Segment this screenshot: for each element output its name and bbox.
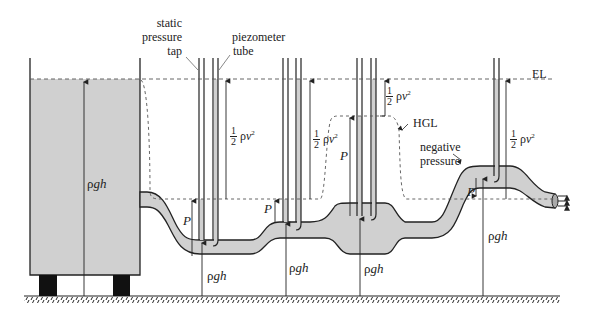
label-p-2: P bbox=[183, 215, 191, 227]
label-p-4: P bbox=[340, 150, 348, 162]
label-dyn-5: 12 ρv2 bbox=[510, 129, 517, 150]
label-dyn-2: 12 ρv2 bbox=[230, 126, 237, 147]
tank-leg-left bbox=[39, 275, 57, 296]
label-rgh-2: ρgh bbox=[207, 270, 227, 282]
label-dyn-3: 12 ρv2 bbox=[313, 129, 320, 150]
outlet-flow-arrows bbox=[558, 196, 567, 206]
tubes-station-5 bbox=[494, 58, 499, 182]
label-rgh-3: ρgh bbox=[289, 262, 309, 274]
label-tap: tap bbox=[150, 45, 182, 57]
label-negative-pressure: pressure bbox=[420, 155, 460, 167]
tank bbox=[30, 58, 140, 296]
label-p-5: P bbox=[467, 186, 475, 198]
label-rgh-4: ρgh bbox=[364, 263, 384, 275]
label-p-3: P bbox=[264, 203, 272, 215]
label-tube: tube bbox=[233, 45, 254, 57]
label-hgl: HGL bbox=[413, 117, 438, 129]
label-piezometer: piezometer bbox=[232, 31, 285, 43]
tubes-station-3 bbox=[283, 58, 301, 230]
label-negative: negative bbox=[420, 141, 461, 153]
label-rgh-tank: ρgh bbox=[87, 178, 107, 190]
ground bbox=[24, 296, 560, 303]
label-static: static bbox=[152, 17, 182, 29]
tubes-station-2 bbox=[199, 58, 218, 246]
label-dyn-4: 12 ρv2 bbox=[386, 86, 393, 107]
tank-leg-right bbox=[113, 275, 130, 296]
tubes-station-4 bbox=[357, 58, 376, 220]
label-el: EL bbox=[532, 68, 547, 80]
label-rgh-5: ρgh bbox=[488, 230, 508, 242]
label-pressure: pressure bbox=[130, 31, 182, 43]
